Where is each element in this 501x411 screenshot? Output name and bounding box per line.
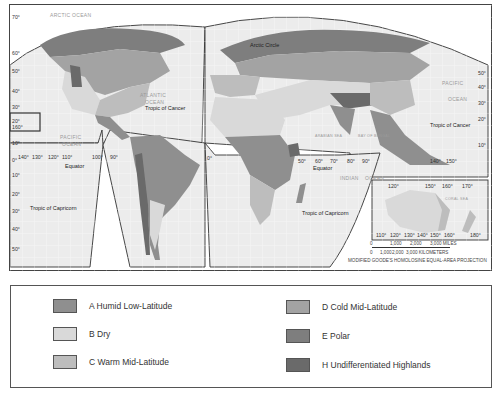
world-climate-map: 160° Arctic Circle Tropic of Cancer Trop… xyxy=(9,4,492,271)
legend-item-d: D Cold Mid-Latitude xyxy=(286,300,397,314)
lon-label-indian: 70° xyxy=(330,158,338,164)
lon-label-americas: 110° xyxy=(62,154,72,160)
tropic-capricorn-indian-label: Tropic of Capricorn xyxy=(302,210,349,216)
legend-label-d: D Cold Mid-Latitude xyxy=(322,302,397,312)
lon-label-indian: 50° xyxy=(298,158,306,164)
legend-swatch-e xyxy=(286,329,310,343)
legend-swatch-d xyxy=(286,300,310,314)
landmass-east-africa-highlands xyxy=(288,143,300,157)
lon-label-australia-bottom: 180° xyxy=(470,232,481,238)
tropic-cancer-pacific-label: Tropic of Cancer xyxy=(430,122,471,128)
lon-label-australia-top: 120° xyxy=(388,183,399,189)
lon-label-americas: 140° xyxy=(18,154,29,160)
projection-note: MODIFIED GOODE'S HOMOLOSINE EQUAL-AREA P… xyxy=(348,258,487,263)
arctic-ocean-label: ARCTIC OCEAN xyxy=(50,12,91,18)
lat-label-left: 50° xyxy=(12,68,20,74)
lat-label-left: 20° xyxy=(12,191,20,197)
lon-label-pacific: 140° xyxy=(430,158,441,164)
legend-label-a: A Humid Low-Latitude xyxy=(89,301,172,311)
atlantic-ocean-label-2: OCEAN xyxy=(145,99,164,105)
legend-item-h: H Undifferentiated Highlands xyxy=(286,358,431,372)
climate-legend: A Humid Low-Latitude B Dry C Warm Mid-La… xyxy=(10,285,492,388)
lon-label-australia-top: 160° xyxy=(442,183,453,189)
scale-miles-1000: 1,000 xyxy=(390,241,402,246)
lat-label-left: 10° xyxy=(12,172,20,178)
lon-label-australia-bottom: 110° xyxy=(376,232,386,238)
lat-label-right: 10° xyxy=(478,142,486,148)
scale-km-1000: 1,000 xyxy=(380,250,392,255)
legend-swatch-c xyxy=(53,355,77,369)
coral-sea-label: CORAL SEA xyxy=(445,197,468,201)
lat-label-left: 30° xyxy=(12,208,20,214)
lon-label-australia-bottom: 140° xyxy=(417,232,428,238)
atlantic-ocean-label: ATLANTIC xyxy=(140,92,166,98)
scale-km-0: 0 xyxy=(370,250,373,255)
lat-label-left: 70° xyxy=(12,14,20,20)
lon-label-indian: 60° xyxy=(315,158,323,164)
lon-label-americas: 90° xyxy=(110,154,118,160)
legend-label-e: E Polar xyxy=(322,331,350,341)
lat-label-right: 20° xyxy=(478,116,486,122)
equator-americas-label: Equator xyxy=(65,163,84,169)
lat-label-left: 40° xyxy=(12,88,20,94)
lon-label-indian: 80° xyxy=(347,158,355,164)
lon-label-australia-bottom: 150° xyxy=(430,232,441,238)
hawaii-inset-label: 160° xyxy=(12,124,23,130)
tropic-capricorn-americas-label: Tropic of Capricorn xyxy=(30,205,77,211)
legend-label-b: B Dry xyxy=(89,329,110,339)
lat-label-left: 60° xyxy=(12,50,20,56)
lat-label-left: 0° xyxy=(12,157,17,163)
lon-label-indian: 90° xyxy=(362,158,370,164)
scale-km-2000: 2,000 xyxy=(392,250,404,255)
pacific-east-label: PACIFIC xyxy=(442,80,464,86)
tropic-cancer-atlantic-label: Tropic of Cancer xyxy=(145,105,186,111)
lon-label-australia-top: 170° xyxy=(462,183,473,189)
indian-ocean-label-2: OCEAN xyxy=(365,175,384,181)
lat-label-left: 30° xyxy=(12,104,20,110)
lon-label-australia-top: 150° xyxy=(425,183,436,189)
legend-item-b: B Dry xyxy=(53,327,110,341)
arabian-sea-label: ARABIAN SEA xyxy=(315,134,343,138)
lat-label-right: 40° xyxy=(478,84,486,90)
lon-label-americas: 130° xyxy=(32,154,43,160)
prime-meridian-label: 0° xyxy=(207,155,212,161)
bay-of-bengal-label: BAY OF BENGAL xyxy=(358,134,390,138)
pacific-east-label-2: OCEAN xyxy=(448,96,467,102)
legend-label-h: H Undifferentiated Highlands xyxy=(322,360,431,370)
arctic-circle-label: Arctic Circle xyxy=(250,42,279,48)
pacific-west-label: PACIFIC xyxy=(60,134,82,140)
indian-ocean-label: INDIAN xyxy=(340,175,359,181)
lat-label-right: 30° xyxy=(478,100,486,106)
scale-miles-3000: 3,000 MILES xyxy=(430,241,457,246)
equator-indian-label: Equator xyxy=(313,165,332,171)
lat-label-left: 20° xyxy=(12,118,20,124)
lon-label-pacific: 150° xyxy=(446,158,457,164)
legend-item-c: C Warm Mid-Latitude xyxy=(53,355,169,369)
lat-label-right: 50° xyxy=(478,70,486,76)
lon-label-australia-bottom: 130° xyxy=(404,232,415,238)
pacific-west-label-2: OCEAN xyxy=(62,141,81,147)
legend-item-e: E Polar xyxy=(286,329,350,343)
scale-km-3000: 3,000 KILOMETERS xyxy=(406,250,448,255)
legend-label-c: C Warm Mid-Latitude xyxy=(89,357,169,367)
legend-item-a: A Humid Low-Latitude xyxy=(53,299,172,313)
lon-label-australia-bottom: 160° xyxy=(444,232,455,238)
map-canvas: 160° Arctic Circle Tropic of Cancer Trop… xyxy=(10,5,493,272)
scale-miles-0: 0 xyxy=(370,241,373,246)
lon-label-americas: 120° xyxy=(48,154,59,160)
legend-swatch-h xyxy=(286,358,310,372)
lat-label-left: 40° xyxy=(12,226,20,232)
lat-label-left: 50° xyxy=(12,246,20,252)
lat-label-left: 10° xyxy=(12,140,20,146)
scale-miles-2000: 2,000 xyxy=(410,241,422,246)
lon-label-americas: 100° xyxy=(92,154,103,160)
lon-label-australia-bottom: 120° xyxy=(390,232,401,238)
legend-swatch-b xyxy=(53,327,77,341)
legend-swatch-a xyxy=(53,299,77,313)
